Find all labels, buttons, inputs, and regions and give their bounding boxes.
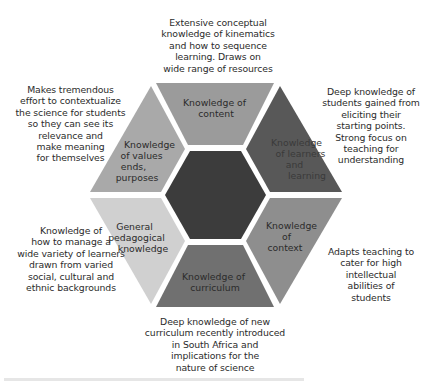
center-hexagon bbox=[165, 151, 266, 239]
label-curriculum: Knowledge of curriculum bbox=[182, 271, 248, 293]
note-content: Extensive conceptual knowledge of kinema… bbox=[148, 17, 288, 74]
note-general-pedagogical: Knowledge of how to manage a wide variet… bbox=[10, 225, 132, 293]
faint-caption-line bbox=[4, 378, 304, 381]
note-learners: Deep knowledge of students gained from e… bbox=[318, 86, 424, 166]
note-context: Adapts teaching to cater for high intell… bbox=[318, 246, 424, 303]
note-curriculum: Deep knowledge of new curriculum recentl… bbox=[135, 316, 295, 373]
note-values: Makes tremendous effort to contextualize… bbox=[8, 84, 133, 164]
